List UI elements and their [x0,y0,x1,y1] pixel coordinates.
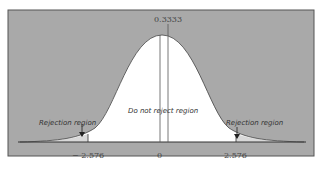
rejection-right-label: Rejection region [226,119,283,127]
normal-distribution-chart: 0.3333 Do not reject region Rejection re… [0,0,320,179]
do-not-reject-label: Do not reject region [128,107,198,115]
tick-label-left: − 2.576 [72,151,104,160]
rejection-left-label: Rejection region [39,119,96,127]
tick-label-center: 0 [157,151,162,160]
test-statistic-label: 0.3333 [154,15,182,24]
tick-label-right: 2.576 [224,151,247,160]
